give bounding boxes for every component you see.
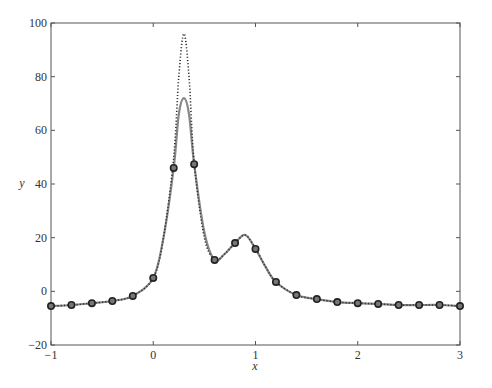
node-marker [436,302,442,308]
y-tick-label: 0 [41,284,47,298]
y-tick-label: −20 [28,338,47,352]
exact-function-dotted-line [51,34,460,306]
y-tick-label: 20 [35,231,47,245]
node-marker [150,275,156,281]
node-marker [355,300,361,306]
node-marker [211,257,217,263]
node-marker [171,165,177,171]
line-chart: −10123 −20020406080100 x y [0,0,492,388]
y-tick-label: 100 [29,16,47,30]
node-marker [109,298,115,304]
node-marker [130,293,136,299]
node-marker [273,279,279,285]
node-marker [293,292,299,298]
node-marker [48,303,54,309]
node-marker [334,299,340,305]
data-series [48,34,463,310]
node-marker [252,246,258,252]
y-axis-label: y [18,176,25,190]
x-tick-label: 2 [355,348,361,362]
axis-ticks [51,23,460,345]
node-marker [395,302,401,308]
node-marker [375,301,381,307]
y-tick-labels: −20020406080100 [28,16,47,352]
plot-frame [51,23,460,345]
node-marker [416,302,422,308]
x-tick-label: 0 [150,348,156,362]
interpolant-line [51,98,460,306]
y-tick-label: 40 [35,177,47,191]
y-tick-label: 80 [35,70,47,84]
node-marker [232,240,238,246]
node-marker [457,303,463,309]
node-marker [191,161,197,167]
x-axis-label: x [251,359,258,373]
y-tick-label: 60 [35,123,47,137]
x-tick-label: 3 [457,348,463,362]
node-marker [68,302,74,308]
node-marker [89,300,95,306]
node-marker [314,296,320,302]
